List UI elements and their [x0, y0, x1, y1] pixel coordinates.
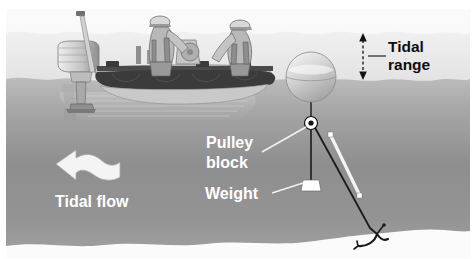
pulley-block-icon	[305, 117, 318, 130]
tidal-flow-label: Tidal flow	[55, 193, 129, 210]
weight-icon	[301, 180, 321, 191]
buoy-icon	[286, 52, 336, 102]
illustration-canvas: Tidal range Pulley block Weight Tidal fl…	[0, 0, 476, 259]
tidal-range-label-line1: Tidal	[388, 38, 424, 55]
tidal-mooring-illustration: Tidal range Pulley block Weight Tidal fl…	[0, 0, 476, 259]
weight-label-text: Weight	[205, 185, 259, 202]
pulley-block-label-line1: Pulley	[206, 134, 253, 151]
pulley-block-label-line2: block	[206, 154, 248, 171]
tidal-range-label-line2: range	[388, 56, 431, 73]
